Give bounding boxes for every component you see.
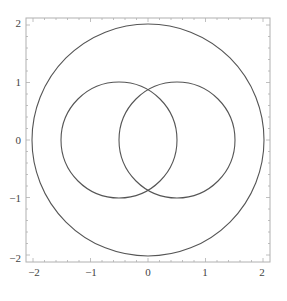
plot: −2 −1 0 1 2 2 1 0 −1 −2 bbox=[0, 0, 287, 301]
x-tick-label: 2 bbox=[259, 266, 265, 278]
tick-marks bbox=[26, 18, 270, 262]
y-tick-label: 0 bbox=[16, 134, 22, 146]
x-tick-label: 1 bbox=[202, 266, 208, 278]
x-tick-label: −1 bbox=[85, 266, 97, 278]
y-tick-label: −2 bbox=[9, 252, 21, 264]
circle-large bbox=[32, 24, 264, 256]
y-tick-label: −1 bbox=[9, 192, 21, 204]
plot-frame bbox=[26, 18, 270, 262]
x-tick-label: 0 bbox=[145, 266, 151, 278]
y-tick-label: 1 bbox=[16, 76, 22, 88]
y-tick-label: 2 bbox=[16, 17, 22, 29]
x-tick-label: −2 bbox=[28, 266, 40, 278]
